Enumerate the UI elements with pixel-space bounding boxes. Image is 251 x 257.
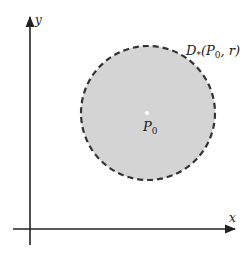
y-axis-label: y — [34, 13, 42, 27]
x-axis-label: x — [229, 211, 236, 225]
center-point-excluded — [145, 111, 149, 115]
region-label: D*(P0, r) — [185, 43, 240, 60]
punctured-disk-diagram: y x D*(P0, r) P0 — [0, 0, 251, 257]
